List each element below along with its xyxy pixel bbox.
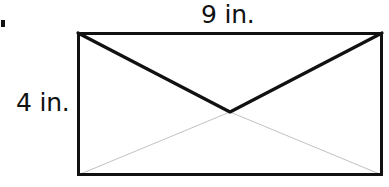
fold-right-hidden-line (230, 112, 382, 175)
width-dimension-label: 9 in. (201, 2, 255, 27)
height-dimension-label: 4 in. (16, 90, 70, 115)
envelope-rectangle (79, 34, 382, 175)
fold-left-hidden-line (78, 112, 230, 175)
figure-canvas: 9 in. 4 in. (0, 0, 389, 187)
envelope-flap (78, 33, 382, 112)
